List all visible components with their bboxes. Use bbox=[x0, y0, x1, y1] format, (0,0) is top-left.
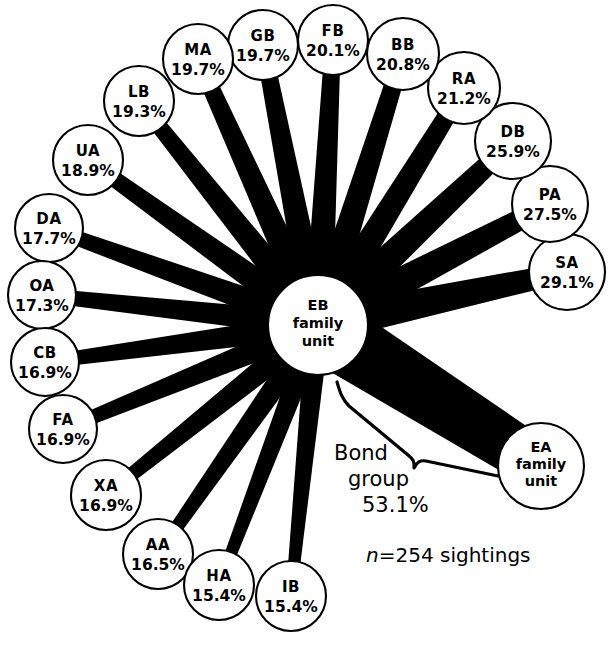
bond-group-line1: Bond bbox=[334, 441, 388, 465]
node-gb[interactable]: GB19.7% bbox=[228, 10, 298, 80]
node-ua[interactable]: UA18.9% bbox=[53, 125, 123, 195]
node-value-da: 17.7% bbox=[22, 230, 76, 248]
hub-node-eb[interactable]: EBfamilyunit bbox=[268, 275, 368, 375]
node-value-gb: 19.7% bbox=[236, 47, 290, 65]
node-id-db: DB bbox=[500, 123, 525, 141]
node-circle-cb[interactable] bbox=[11, 328, 79, 396]
hub-label-line1: EB bbox=[308, 297, 329, 313]
node-id-fb: FB bbox=[322, 22, 345, 40]
node-value-ib: 15.4% bbox=[264, 598, 318, 616]
node-bb[interactable]: BB20.8% bbox=[367, 18, 439, 90]
node-circle-gb[interactable] bbox=[228, 10, 298, 80]
node-id-oa: OA bbox=[29, 277, 54, 295]
node-id-sa: SA bbox=[555, 254, 579, 272]
node-id-pa: PA bbox=[539, 186, 561, 204]
node-sa[interactable]: SA29.1% bbox=[529, 234, 605, 310]
hub-label-line3: unit bbox=[302, 333, 335, 349]
node-value-ha: 15.4% bbox=[192, 587, 246, 605]
hub-label-line2: family bbox=[293, 315, 344, 331]
node-circle-lb[interactable] bbox=[104, 66, 174, 136]
node-value-bb: 20.8% bbox=[376, 56, 430, 74]
node-value-fa: 16.9% bbox=[36, 431, 90, 449]
node-id-xa: XA bbox=[94, 477, 118, 495]
node-ea-label-line1: EA bbox=[530, 439, 552, 455]
node-id-ha: HA bbox=[206, 567, 231, 585]
bond-group-line2: group bbox=[348, 467, 409, 491]
node-circle-sa[interactable] bbox=[529, 234, 605, 310]
node-ib[interactable]: IB15.4% bbox=[256, 561, 326, 631]
node-circle-ma[interactable] bbox=[163, 24, 233, 94]
node-ea-label-line2: family bbox=[516, 456, 567, 472]
node-fa[interactable]: FA16.9% bbox=[29, 395, 97, 463]
node-id-da: DA bbox=[36, 210, 61, 228]
node-fb[interactable]: FB20.1% bbox=[298, 5, 368, 75]
node-id-ua: UA bbox=[76, 142, 101, 160]
node-circle-ib[interactable] bbox=[256, 561, 326, 631]
node-id-fa: FA bbox=[52, 411, 73, 429]
node-value-lb: 19.3% bbox=[112, 103, 166, 121]
node-circle-bb[interactable] bbox=[367, 18, 439, 90]
node-id-ma: MA bbox=[184, 41, 212, 59]
node-circle-oa[interactable] bbox=[8, 261, 76, 329]
node-value-pa: 27.5% bbox=[523, 206, 577, 224]
node-circle-aa[interactable] bbox=[123, 519, 193, 589]
node-lb[interactable]: LB19.3% bbox=[104, 66, 174, 136]
node-id-cb: CB bbox=[33, 344, 57, 362]
node-value-ua: 18.9% bbox=[61, 162, 115, 180]
sample-size-footnote: n=254 sightings bbox=[366, 543, 531, 567]
node-value-ma: 19.7% bbox=[171, 61, 225, 79]
node-id-ib: IB bbox=[282, 578, 300, 596]
node-ha[interactable]: HA15.4% bbox=[184, 550, 254, 620]
node-value-oa: 17.3% bbox=[15, 297, 69, 315]
node-circle-fa[interactable] bbox=[29, 395, 97, 463]
node-circle-fb[interactable] bbox=[298, 5, 368, 75]
node-ma[interactable]: MA19.7% bbox=[163, 24, 233, 94]
sociogram-figure: EBfamilyunit SA29.1%PA27.5%DB25.9%RA21.2… bbox=[0, 0, 608, 645]
node-circle-ha[interactable] bbox=[184, 550, 254, 620]
footnote-rest: =254 sightings bbox=[379, 543, 531, 567]
node-id-aa: AA bbox=[146, 536, 170, 554]
node-aa[interactable]: AA16.5% bbox=[123, 519, 193, 589]
node-ea-label-line3: unit bbox=[525, 473, 558, 489]
node-id-lb: LB bbox=[128, 83, 150, 101]
bond-group-line3: 53.1% bbox=[362, 493, 429, 517]
node-oa[interactable]: OA17.3% bbox=[8, 261, 76, 329]
radial-network-diagram: EBfamilyunit SA29.1%PA27.5%DB25.9%RA21.2… bbox=[0, 0, 608, 645]
node-id-ra: RA bbox=[452, 70, 476, 88]
node-value-ra: 21.2% bbox=[437, 90, 491, 108]
node-value-db: 25.9% bbox=[486, 143, 540, 161]
node-cb[interactable]: CB16.9% bbox=[11, 328, 79, 396]
node-value-aa: 16.5% bbox=[131, 556, 185, 574]
footnote-italic-n: n bbox=[366, 543, 379, 567]
node-xa[interactable]: XA16.9% bbox=[71, 460, 141, 530]
bond-group-annotation: Bond group 53.1% bbox=[334, 441, 429, 517]
node-circle-da[interactable] bbox=[15, 194, 83, 262]
node-circle-xa[interactable] bbox=[71, 460, 141, 530]
bond-node-ea[interactable]: EAfamilyunit bbox=[498, 423, 584, 509]
node-id-bb: BB bbox=[391, 36, 415, 54]
node-value-cb: 16.9% bbox=[18, 364, 72, 382]
node-value-fb: 20.1% bbox=[306, 42, 360, 60]
node-circle-ua[interactable] bbox=[53, 125, 123, 195]
node-id-gb: GB bbox=[251, 27, 276, 45]
node-value-sa: 29.1% bbox=[540, 274, 594, 292]
node-da[interactable]: DA17.7% bbox=[15, 194, 83, 262]
node-value-xa: 16.9% bbox=[79, 497, 133, 515]
